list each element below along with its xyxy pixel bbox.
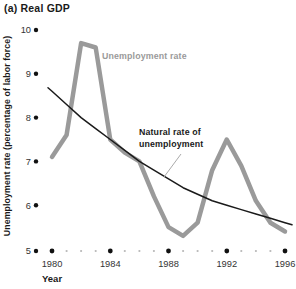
y-tick-label-5: 5 [26, 246, 31, 256]
x-minor-dot-1995 [269, 250, 271, 252]
y-tick-label-9: 9 [26, 69, 31, 79]
x-minor-dot-1991 [211, 250, 213, 252]
y-tick-label-8: 8 [26, 113, 31, 123]
x-minor-dot-1987 [153, 250, 155, 252]
figure-title: (a) Real GDP [4, 2, 70, 14]
x-tick-dot-1980 [50, 249, 55, 254]
y-tick-label-10: 10 [21, 25, 31, 35]
y-tick-label-7: 7 [26, 157, 31, 167]
x-minor-dot-1981 [66, 250, 68, 252]
figure-panel: 109876519801984198819921996 (a) Real GDP… [0, 0, 296, 289]
x-minor-dot-1989 [182, 250, 184, 252]
y-tick-dot-6 [34, 203, 38, 207]
y-tick-dot-5 [34, 249, 38, 253]
y-tick-label-6: 6 [26, 201, 31, 211]
x-axis-title: Year [42, 273, 62, 284]
x-minor-dot-1986 [138, 250, 140, 252]
x-minor-dot-1994 [255, 250, 257, 252]
natural-rate-line [48, 88, 292, 225]
x-tick-dot-1992 [224, 249, 229, 254]
x-tick-dot-1984 [108, 249, 113, 254]
x-tick-label-1984: 1984 [100, 259, 121, 269]
x-tick-label-1992: 1992 [216, 259, 237, 269]
x-minor-dot-1983 [95, 250, 97, 252]
x-tick-dot-1996 [283, 249, 288, 254]
unemployment-rate-series-label: Unemployment rate [102, 51, 187, 61]
x-minor-dot-1982 [80, 250, 82, 252]
y-axis-title: Unemployment rate (percentage of labor f… [2, 20, 12, 252]
natural-rate-series-label: Natural rate of unemployment [139, 127, 221, 150]
x-tick-label-1996: 1996 [275, 259, 296, 269]
y-tick-dot-9 [34, 72, 38, 76]
natural-rate-leader-line [164, 154, 181, 177]
y-tick-dot-10 [34, 28, 38, 32]
x-tick-label-1988: 1988 [158, 259, 179, 269]
y-tick-dot-7 [34, 159, 38, 163]
x-minor-dot-1990 [197, 250, 199, 252]
y-tick-dot-8 [34, 115, 38, 119]
x-tick-label-1980: 1980 [42, 259, 63, 269]
x-minor-dot-1985 [124, 250, 126, 252]
x-tick-dot-1988 [166, 249, 171, 254]
x-minor-dot-1993 [240, 250, 242, 252]
